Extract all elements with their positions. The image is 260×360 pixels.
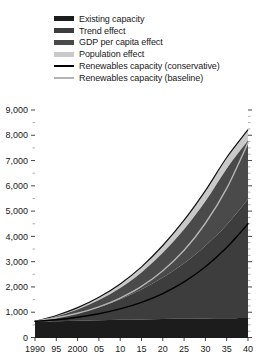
y-tick-label: 7,000 [5,156,28,166]
y-tick-label: 6,000 [5,181,28,191]
chart-svg: 01,0002,0003,0004,0005,0006,0007,0008,00… [0,0,260,360]
x-tick-label: 15 [136,344,146,354]
y-tick-label: 1,000 [5,307,28,317]
y-tick-label: 2,000 [5,282,28,292]
x-tick-label: 2000 [68,344,88,354]
x-tick-label: 10 [115,344,125,354]
y-tick-label: 3,000 [5,257,28,267]
y-axis: 01,0002,0003,0004,0005,0006,0007,0008,00… [5,105,35,343]
y-tick-label: 8,000 [5,130,28,140]
stacked-areas [35,130,248,338]
x-tick-label: 20 [158,344,168,354]
x-tick-label: 05 [94,344,104,354]
x-tick-label: 30 [200,344,210,354]
y-tick-label: 0 [23,333,28,343]
y-tick-label: 9,000 [5,105,28,115]
x-tick-label: 95 [51,344,61,354]
x-tick-label: 1990 [25,344,45,354]
y-tick-label: 5,000 [5,206,28,216]
chart-plot-area: 01,0002,0003,0004,0005,0006,0007,0008,00… [0,0,260,360]
x-tick-label: 40 [243,344,253,354]
y-tick-label: 4,000 [5,232,28,242]
x-axis: 19909520000510152025303540 [25,338,253,354]
x-tick-label: 25 [179,344,189,354]
chart-figure: Existing capacity Trend effect GDP per c… [0,0,260,360]
x-tick-label: 35 [222,344,232,354]
